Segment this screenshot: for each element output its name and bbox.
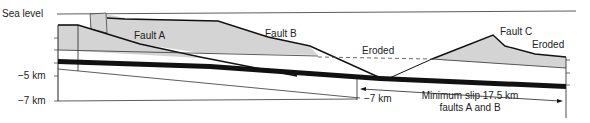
slip-annotation-line1: Minimum slip 17.5 km <box>420 91 520 101</box>
depth-7km-marker-label: −7 km <box>364 94 392 104</box>
eroded-center-label: Eroded <box>362 46 394 56</box>
marker-bed <box>58 59 566 89</box>
slip-arrowhead-right <box>557 99 563 103</box>
eroded-right-label: Eroded <box>532 40 564 50</box>
fault-c-label: Fault C <box>500 27 532 37</box>
slip-arrowhead-left <box>360 87 366 91</box>
fault-b-label: Fault B <box>265 29 297 39</box>
depth-7km-label: −7 km <box>18 96 46 106</box>
sea-level-label: Sea level <box>2 9 43 19</box>
depth-5km-label: −5 km <box>18 71 46 81</box>
bed-base <box>58 99 357 101</box>
sea-level-line <box>57 11 576 14</box>
valley-profile <box>385 59 432 80</box>
fault-a-label: Fault A <box>134 31 165 41</box>
slip-annotation-line2: faults A and B <box>420 103 520 113</box>
